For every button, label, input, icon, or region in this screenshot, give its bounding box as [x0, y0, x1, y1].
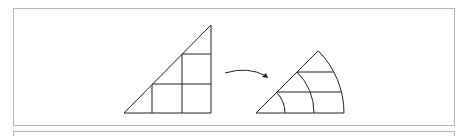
diagram-canvas: [0, 0, 471, 136]
curved-arrow-icon: [225, 70, 268, 78]
grid-triangle: [124, 25, 211, 113]
polar-sector: [256, 51, 344, 113]
